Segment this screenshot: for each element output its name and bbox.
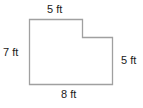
bottom-side-label: 8 ft <box>61 88 76 100</box>
right-side-label: 5 ft <box>121 54 136 66</box>
left-side-label: 7 ft <box>3 46 18 58</box>
shape-outline <box>30 20 113 85</box>
top-side-label: 5 ft <box>47 3 62 15</box>
